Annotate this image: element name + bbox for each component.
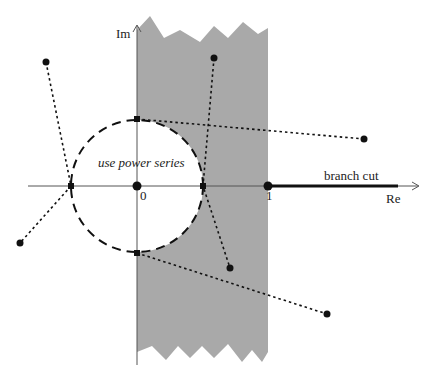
imag-axis-label: Im: [116, 26, 130, 41]
point-6: [324, 311, 331, 318]
point-4: [17, 240, 24, 247]
real-axis-label: Re: [386, 191, 401, 206]
point-1: [43, 59, 50, 66]
branch-cut-label: branch cut: [324, 168, 379, 183]
point-3: [361, 136, 368, 143]
marker-right: [200, 183, 206, 189]
origin-label: 0: [140, 188, 147, 203]
power-series-label: use power series: [98, 155, 185, 170]
marker-bottom: [134, 250, 140, 256]
marker-top: [134, 116, 140, 122]
complex-plane-diagram: Im Re 0 1 use power series branch cut: [0, 0, 444, 382]
mapping-path-1: [20, 62, 71, 243]
unit-label: 1: [266, 188, 273, 203]
marker-left: [68, 183, 74, 189]
point-2: [211, 55, 218, 62]
point-5: [227, 265, 234, 272]
